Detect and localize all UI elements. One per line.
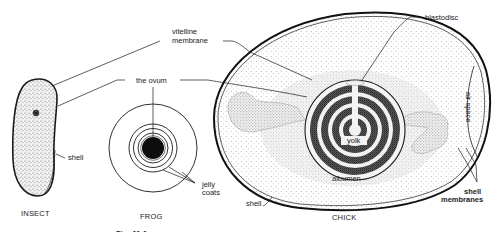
insect-shell-label: shell	[68, 153, 84, 162]
frog-caption: FROG	[140, 212, 162, 221]
the-ovum-label: the ovum	[136, 76, 167, 85]
vitelline-membrane-label: membrane	[172, 36, 208, 45]
vitelline-membrane-label: vitelline	[172, 27, 197, 36]
frog-ovum	[142, 137, 164, 159]
albumen-label: albumen	[332, 174, 361, 183]
latebra	[352, 84, 358, 130]
yolk-label: yolk	[347, 136, 361, 145]
insect-egg-shell	[13, 79, 57, 196]
blastodisc-label: blastodisc	[425, 13, 459, 22]
blastodisc	[346, 81, 364, 86]
chick-caption: CHICK	[332, 213, 356, 222]
jelly-coats-label: coats	[202, 188, 220, 197]
shell-membranes-label: membranes	[441, 195, 483, 204]
insect-caption: INSECT	[21, 209, 50, 218]
air-space-label: air space	[464, 92, 473, 122]
specimen-captions: INSECT FROG CHICK	[21, 209, 356, 222]
insect-egg	[13, 79, 57, 196]
figure-caption: Fig. 11.1 ...	[116, 229, 157, 232]
egg-comparison-diagram: vitelline membrane the ovum shell jelly …	[0, 0, 493, 232]
chick-shell-label: shell	[246, 199, 262, 208]
